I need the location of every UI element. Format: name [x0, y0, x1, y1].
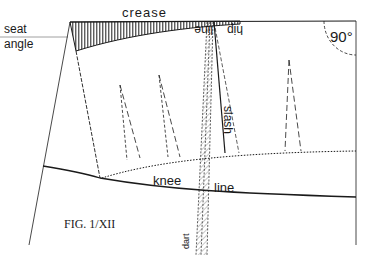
- hip-upside-down-label: hip: [227, 23, 243, 37]
- dotted-curve: [102, 151, 356, 178]
- line-upside-down-label: line: [194, 23, 213, 37]
- seat-label: seat: [4, 22, 27, 36]
- slash-label: slash: [221, 106, 235, 134]
- angle-label: angle: [4, 37, 34, 51]
- dart-label: dart: [181, 233, 191, 249]
- angle-90-label: 90°: [330, 28, 353, 45]
- outer-left-line: [29, 22, 70, 245]
- top-line: [70, 21, 356, 22]
- central-dart-strip: [196, 22, 213, 255]
- figure-caption: FIG. 1/XII: [64, 217, 115, 231]
- knee-label: knee: [153, 173, 181, 188]
- pattern-diagram: crease seat angle line hip slash 90° kne…: [0, 0, 378, 262]
- crease-label: crease: [122, 5, 167, 20]
- inner-left-line: [76, 51, 100, 178]
- knee-line-label: line: [214, 180, 234, 195]
